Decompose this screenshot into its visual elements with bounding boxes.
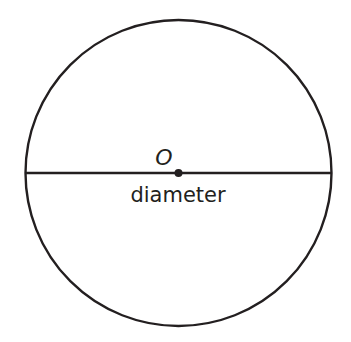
diagram-canvas: O diameter [0,0,351,342]
center-label: O [155,145,172,170]
center-point [175,169,183,177]
diameter-label: diameter [130,183,226,207]
